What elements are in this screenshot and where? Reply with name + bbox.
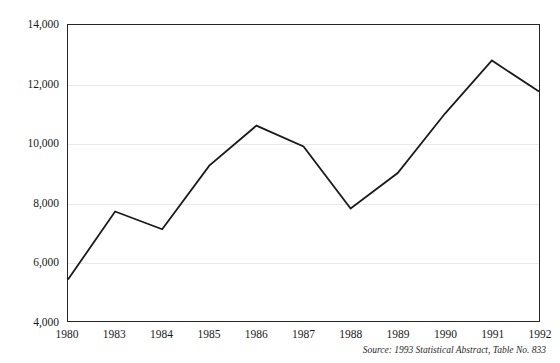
x-tick-label: 1989 — [387, 328, 410, 340]
x-tick-label: 1990 — [434, 328, 457, 340]
x-tick-label: 1988 — [339, 328, 362, 340]
x-tick-label: 1980 — [56, 328, 79, 340]
x-tick-label: 1984 — [150, 328, 173, 340]
x-axis: 1980198319841985198619871988198919901991… — [0, 0, 560, 363]
x-tick-label: 1991 — [481, 328, 504, 340]
x-tick-label: 1985 — [197, 328, 220, 340]
source-note: Source: 1993 Statistical Abstract, Table… — [363, 345, 546, 355]
x-tick-label: 1992 — [529, 328, 552, 340]
x-tick-label: 1983 — [103, 328, 126, 340]
chart-figure: 4,0006,0008,00010,00012,00014,000 198019… — [0, 0, 560, 363]
x-tick-label: 1987 — [292, 328, 315, 340]
x-tick-label: 1986 — [245, 328, 268, 340]
